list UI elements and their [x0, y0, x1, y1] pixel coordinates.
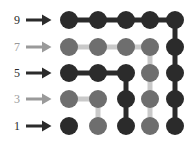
- graph-node: [89, 38, 107, 56]
- graph-node: [166, 64, 184, 82]
- graph-node: [89, 117, 107, 135]
- graph-node: [166, 90, 184, 108]
- graph-node: [89, 64, 107, 82]
- graph-node: [60, 90, 78, 108]
- graph-node: [60, 64, 78, 82]
- graph-node: [141, 64, 159, 82]
- graph-node: [117, 117, 135, 135]
- graph-node: [117, 90, 135, 108]
- graph-node: [141, 117, 159, 135]
- graph-node: [117, 11, 135, 29]
- graph-node: [141, 90, 159, 108]
- graph-node: [117, 64, 135, 82]
- graph-node: [60, 117, 78, 135]
- graph-node: [166, 117, 184, 135]
- graph-node: [117, 38, 135, 56]
- graph-node: [166, 11, 184, 29]
- graph-node: [89, 11, 107, 29]
- figure-canvas: 97531: [0, 0, 190, 148]
- graph-node: [60, 11, 78, 29]
- lattice-graph: [0, 0, 190, 148]
- graph-node: [89, 90, 107, 108]
- graph-node: [166, 38, 184, 56]
- graph-node: [60, 38, 78, 56]
- graph-node: [141, 38, 159, 56]
- graph-node: [141, 11, 159, 29]
